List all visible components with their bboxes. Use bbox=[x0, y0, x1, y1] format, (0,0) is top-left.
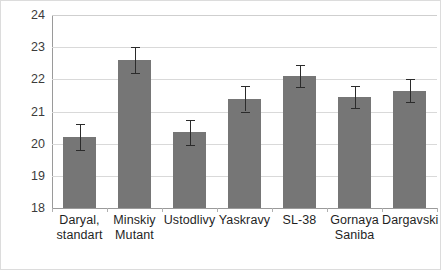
x-axis-category-label: Dargavski bbox=[382, 213, 437, 228]
bar bbox=[283, 76, 316, 208]
category-label-line: standart bbox=[52, 228, 107, 243]
error-bar-cap-lower bbox=[131, 73, 140, 74]
error-bar-cap-lower bbox=[76, 150, 85, 151]
gridline bbox=[52, 15, 437, 16]
gridline bbox=[52, 79, 437, 80]
gridline bbox=[52, 47, 437, 48]
category-label-line: Gornaya bbox=[327, 213, 382, 228]
x-axis-tick-mark bbox=[382, 208, 383, 212]
category-label-line: Mutant bbox=[107, 228, 162, 243]
category-label-line: Saniba bbox=[327, 228, 382, 243]
y-axis-tick-label: 20 bbox=[1, 137, 45, 151]
category-label-line: Ustodlivy bbox=[162, 213, 217, 228]
error-bar-cap-lower bbox=[406, 102, 415, 103]
x-axis-category-label: GornayaSaniba bbox=[327, 213, 382, 243]
bar bbox=[338, 97, 371, 208]
error-bar bbox=[190, 120, 191, 146]
bar bbox=[228, 99, 261, 208]
error-bar-cap-upper bbox=[241, 86, 250, 87]
error-bar bbox=[245, 86, 246, 112]
category-label-line: Yaskravy bbox=[217, 213, 272, 228]
error-bar bbox=[355, 86, 356, 109]
category-label-line: Minskiy bbox=[107, 213, 162, 228]
error-bar-cap-lower bbox=[241, 112, 250, 113]
x-axis-tick-mark bbox=[327, 208, 328, 212]
error-bar-cap-lower bbox=[296, 87, 305, 88]
x-axis-category-label: Ustodlivy bbox=[162, 213, 217, 228]
error-bar-cap-upper bbox=[351, 86, 360, 87]
error-bar bbox=[135, 47, 136, 73]
error-bar bbox=[410, 79, 411, 102]
x-axis-category-label: SL-38 bbox=[272, 213, 327, 228]
x-axis-category-label: Daryal,standart bbox=[52, 213, 107, 243]
error-bar bbox=[300, 65, 301, 88]
y-axis-tick-label: 22 bbox=[1, 72, 45, 86]
error-bar-cap-upper bbox=[131, 47, 140, 48]
category-label-line: Dargavski bbox=[382, 213, 437, 228]
bar-chart-figure: 18192021222324 Daryal,standartMinskiyMut… bbox=[0, 0, 441, 270]
category-label-line: SL-38 bbox=[272, 213, 327, 228]
category-label-line: Daryal, bbox=[52, 213, 107, 228]
x-axis-tick-mark bbox=[272, 208, 273, 212]
error-bar-cap-lower bbox=[186, 145, 195, 146]
error-bar-cap-lower bbox=[351, 108, 360, 109]
y-axis-tick-label: 19 bbox=[1, 169, 45, 183]
bar bbox=[118, 60, 151, 208]
y-axis-tick-label: 21 bbox=[1, 105, 45, 119]
error-bar bbox=[80, 124, 81, 150]
error-bar-cap-upper bbox=[406, 79, 415, 80]
plot-area bbox=[52, 15, 437, 208]
y-axis-tick-label: 18 bbox=[1, 201, 45, 215]
x-axis-tick-mark bbox=[107, 208, 108, 212]
error-bar-cap-upper bbox=[186, 120, 195, 121]
y-axis-tick-label: 23 bbox=[1, 40, 45, 54]
x-axis-tick-mark bbox=[437, 208, 438, 212]
x-axis-category-label: Yaskravy bbox=[217, 213, 272, 228]
x-axis-tick-mark bbox=[162, 208, 163, 212]
error-bar-cap-upper bbox=[76, 124, 85, 125]
x-axis-category-label: MinskiyMutant bbox=[107, 213, 162, 243]
bar bbox=[393, 91, 426, 208]
x-axis-line bbox=[52, 208, 437, 209]
y-axis-tick-label: 24 bbox=[1, 8, 45, 22]
error-bar-cap-upper bbox=[296, 65, 305, 66]
x-axis-tick-mark bbox=[52, 208, 53, 212]
x-axis-tick-mark bbox=[217, 208, 218, 212]
